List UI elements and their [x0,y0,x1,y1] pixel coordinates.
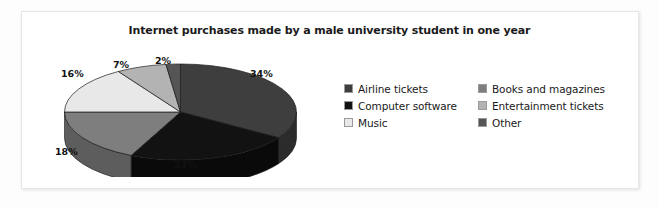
legend-swatch-icon [478,101,487,110]
slice-label-other: 2% [155,55,171,66]
slice-label-entertainment-tickets: 7% [113,59,129,70]
legend-item-label: Entertainment tickets [492,100,604,112]
legend-item-other: Other [478,114,628,131]
legend-swatch-icon [344,84,353,93]
legend-swatch-icon [478,118,487,127]
slice-label-computer-software: 23% [174,159,197,170]
legend-item-label: Books and magazines [492,83,605,95]
legend-item-books-and-magazines: Books and magazines [478,80,628,97]
legend-swatch-icon [344,118,353,127]
chart-legend: Airline tickets Books and magazines Comp… [344,80,634,131]
legend-item-label: Airline tickets [358,83,428,95]
slice-label-books-and-magazines: 18% [55,146,78,157]
legend-swatch-icon [344,101,353,110]
legend-item-label: Music [358,117,387,129]
legend-item-label: Other [492,117,521,129]
slice-label-airline-tickets: 34% [250,68,273,79]
legend-swatch-icon [478,84,487,93]
legend-item-music: Music [344,114,478,131]
legend-item-entertainment-tickets: Entertainment tickets [478,97,628,114]
legend-item-computer-software: Computer software [344,97,478,114]
slice-label-music: 16% [61,68,84,79]
legend-item-airline-tickets: Airline tickets [344,80,478,97]
legend-item-label: Computer software [358,100,457,112]
chart-figure: Internet purchases made by a male univer… [0,0,659,208]
chart-title: Internet purchases made by a male univer… [0,24,659,37]
